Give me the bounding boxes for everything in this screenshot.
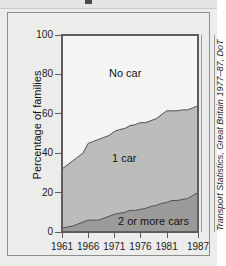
- y-tick-label-0: 0: [23, 227, 53, 237]
- source-caption: Transport Statistics, Great Britain 1977…: [215, 41, 217, 231]
- stacked-area-plot: [62, 35, 198, 232]
- figure-container: 020406080100 196119661971197619811987 Pe…: [0, 0, 217, 266]
- y-tick-label-wrap-0: 0: [21, 227, 53, 237]
- y-tick-40: [55, 153, 62, 154]
- y-tick-0: [55, 232, 62, 233]
- x-tick-1961: [62, 232, 63, 238]
- band-label-one-car: 1 car: [112, 152, 136, 164]
- x-tick-label-1981: 1981: [150, 241, 184, 252]
- plot-top-border: [61, 34, 199, 36]
- x-tick-1981: [167, 232, 168, 238]
- y-tick-100: [55, 35, 62, 36]
- x-tick-1971: [114, 232, 115, 238]
- clipped-text-fragment: [85, 0, 92, 4]
- y-tick-label-100: 100: [23, 30, 53, 40]
- band-label-no-car: No car: [109, 67, 141, 79]
- top-crop-rule: [0, 0, 217, 9]
- y-tick-label-wrap-100: 100: [21, 30, 53, 40]
- x-tick-1987: [198, 232, 199, 238]
- x-axis-line: [61, 231, 199, 233]
- plot-right-border: [197, 34, 199, 233]
- y-axis-line: [61, 34, 63, 233]
- y-tick-60: [55, 113, 62, 114]
- band-label-two-or-more-cars: 2 or more cars: [118, 215, 189, 227]
- plot-area: [62, 35, 198, 232]
- y-tick-80: [55, 74, 62, 75]
- chart-frame: 020406080100 196119661971197619811987 Pe…: [7, 12, 210, 256]
- y-axis-title: Percentage of families: [31, 40, 43, 210]
- y-tick-20: [55, 192, 62, 193]
- source-caption-rule-left: [201, 35, 202, 232]
- x-tick-1966: [88, 232, 89, 238]
- x-tick-1976: [140, 232, 141, 238]
- x-tick-label-1987: 1987: [181, 241, 215, 252]
